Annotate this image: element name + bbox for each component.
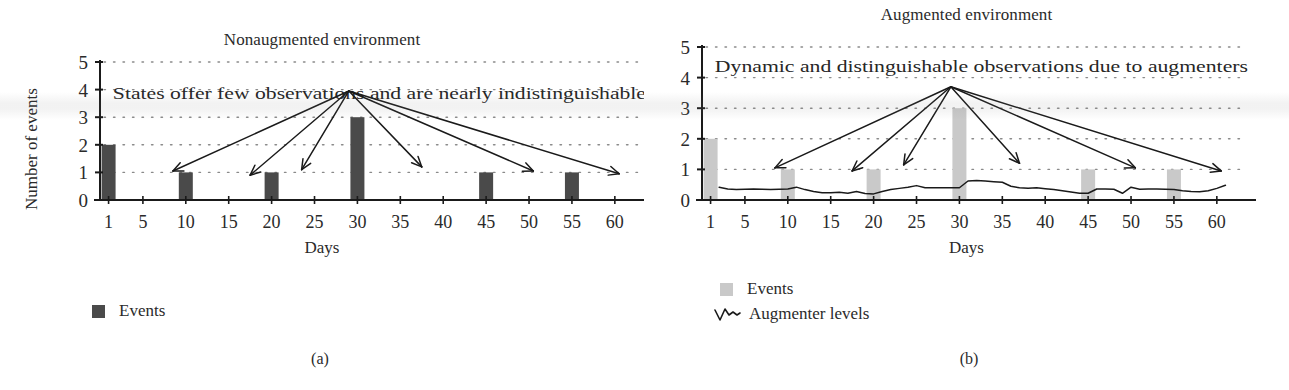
x-axis-label-a: Days [0, 238, 644, 258]
subcaption-a: (a) [280, 350, 360, 368]
x-tick-label: 1 [706, 212, 715, 232]
x-tick-label: 50 [520, 212, 538, 232]
annotation-arrow [904, 87, 951, 165]
y-tick-label: 5 [79, 52, 89, 73]
y-tick-label: 1 [79, 162, 89, 183]
bar [1081, 169, 1095, 200]
x-tick-label: 55 [563, 212, 581, 232]
events-swatch-icon [720, 283, 733, 296]
x-tick-label: 15 [822, 212, 840, 232]
y-tick-label: 3 [681, 98, 691, 119]
legend-label-events-b: Events [747, 279, 793, 299]
legend-item-events-a: Events [92, 300, 165, 322]
x-tick-label: 5 [740, 212, 749, 232]
bar [565, 172, 579, 200]
legend-a: Events [92, 300, 165, 325]
x-tick-label: 20 [865, 212, 883, 232]
x-tick-label: 5 [138, 212, 147, 232]
bar [479, 172, 493, 200]
bar [781, 169, 795, 200]
annotation-arrow [852, 87, 951, 171]
bar [867, 169, 881, 200]
x-tick-label: 60 [606, 212, 624, 232]
x-tick-label: 50 [1122, 212, 1140, 232]
x-tick-label: 45 [1079, 212, 1097, 232]
x-tick-label: 40 [1036, 212, 1054, 232]
figure-container: Nonaugmented environment Number of event… [0, 0, 1289, 390]
x-tick-label: 25 [908, 212, 926, 232]
x-tick-label: 25 [306, 212, 324, 232]
legend-item-augmenter-b: Augmenter levels [720, 303, 869, 325]
x-tick-label: 35 [993, 212, 1011, 232]
legend-label-augmenter-b: Augmenter levels [749, 304, 869, 324]
subcaption-b: (b) [929, 350, 1009, 368]
x-tick-label: 10 [779, 212, 797, 232]
annotation-arrow [250, 91, 349, 175]
chart-panel-a: Nonaugmented environment Number of event… [0, 0, 644, 390]
bar [704, 139, 718, 200]
squiggle-line-icon [713, 306, 741, 322]
y-tick-label: 2 [681, 129, 691, 150]
y-tick-label: 4 [79, 80, 89, 101]
bar [350, 117, 364, 200]
plot-area-b: 012345151015202530354045505560Dynamic an… [644, 0, 1289, 390]
annotation-arrow [951, 87, 1135, 168]
y-tick-label: 5 [681, 37, 691, 58]
chart-panel-b: Augmented environment Number of events 0… [644, 0, 1289, 390]
x-tick-label: 30 [950, 212, 968, 232]
x-tick-label: 40 [434, 212, 452, 232]
x-tick-label: 45 [477, 212, 495, 232]
events-swatch-icon [92, 305, 105, 318]
bar [952, 108, 966, 200]
legend-item-events-b: Events [720, 278, 869, 300]
y-tick-label: 0 [79, 190, 89, 211]
x-tick-label: 30 [348, 212, 366, 232]
x-axis-label-b: Days [644, 238, 1289, 258]
x-tick-label: 10 [177, 212, 195, 232]
legend-label-events-a: Events [119, 301, 165, 321]
x-tick-label: 55 [1165, 212, 1183, 232]
x-tick-label: 15 [220, 212, 238, 232]
bar [1167, 169, 1181, 200]
bar [179, 172, 193, 200]
y-tick-label: 2 [79, 135, 89, 156]
annotation-arrow [775, 87, 951, 168]
legend-b: Events Augmenter levels [720, 278, 869, 328]
annotation-arrow [349, 91, 533, 171]
x-tick-label: 1 [104, 212, 113, 232]
y-tick-label: 4 [681, 68, 691, 89]
x-tick-label: 35 [391, 212, 409, 232]
bar [265, 172, 279, 200]
bar [102, 145, 116, 200]
chart-annotation: Dynamic and distinguishable observations… [715, 56, 1248, 76]
y-tick-label: 3 [79, 107, 89, 128]
y-tick-label: 0 [681, 190, 691, 211]
x-tick-label: 60 [1208, 212, 1226, 232]
augmenter-level-line [719, 180, 1225, 193]
plot-area-a: 012345151015202530354045505560States off… [0, 0, 644, 390]
y-tick-label: 1 [681, 159, 691, 180]
x-tick-label: 20 [263, 212, 281, 232]
annotation-arrow [951, 87, 1221, 172]
